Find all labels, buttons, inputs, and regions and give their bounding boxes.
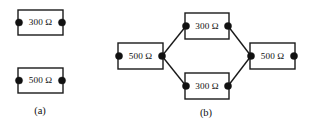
- resistor-500-ohm-b-right-terminal-right: [290, 52, 297, 59]
- wire-top300-to-right500: [228, 26, 251, 56]
- wire-left500-to-bottom300: [162, 56, 186, 86]
- resistor-300-ohm-a-label: 300 Ω: [29, 17, 52, 27]
- resistor-500-ohm-a-terminal-left: [15, 77, 22, 84]
- resistor-300-ohm-a-terminal-right: [58, 19, 65, 26]
- resistor-500-ohm-a-label: 500 Ω: [29, 75, 52, 85]
- resistor-300-ohm-b-bottom-terminal-left: [182, 82, 189, 89]
- panel-caption-a: (a): [34, 105, 46, 117]
- resistor-500-ohm-b-right-label: 500 Ω: [261, 51, 284, 61]
- wire-bottom300-to-right500: [228, 56, 251, 86]
- wire-left500-to-top300: [162, 26, 186, 56]
- resistor-500-ohm-b-left-label: 500 Ω: [129, 51, 152, 61]
- resistor-500-ohm-b-left-terminal-right: [158, 52, 165, 59]
- resistor-300-ohm-a-terminal-left: [15, 19, 22, 26]
- resistor-300-ohm-b-top-label: 300 Ω: [195, 21, 218, 31]
- resistor-500-ohm-a-terminal-right: [58, 77, 65, 84]
- resistor-500-ohm-b-right-terminal-left: [247, 52, 254, 59]
- resistor-500-ohm-b-left-terminal-left: [115, 52, 122, 59]
- resistor-300-ohm-b-top-terminal-left: [182, 22, 189, 29]
- resistor-300-ohm-b-top-terminal-right: [224, 22, 231, 29]
- resistor-300-ohm-b-bottom-terminal-right: [224, 82, 231, 89]
- panel-caption-b: (b): [200, 107, 213, 119]
- resistor-network-figure: 300 Ω500 Ω(a)500 Ω300 Ω300 Ω500 Ω(b): [0, 0, 309, 125]
- resistor-300-ohm-b-bottom-label: 300 Ω: [195, 81, 218, 91]
- figure-canvas: 300 Ω500 Ω(a)500 Ω300 Ω300 Ω500 Ω(b): [0, 0, 309, 125]
